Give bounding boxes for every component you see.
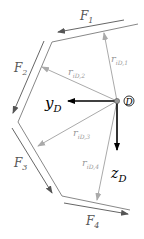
force-arrow-4 <box>64 203 128 214</box>
origin-point <box>114 98 119 103</box>
y-axis-label: yD <box>44 94 62 114</box>
vector-label-1: riD,1 <box>111 53 128 66</box>
vector-r-4 <box>97 101 117 200</box>
origin-label: D <box>124 97 132 107</box>
force-label-1: F1 <box>79 9 93 25</box>
force-label-3: F3 <box>13 156 27 172</box>
vector-label-4: riD,4 <box>82 157 99 170</box>
force-label-4: F4 <box>85 214 99 230</box>
force-label-2: F2 <box>13 61 27 77</box>
vector-label-3: riD,3 <box>73 127 90 140</box>
z-axis-label: zD <box>110 165 126 184</box>
force-arrow-2 <box>13 41 44 113</box>
vector-r-1 <box>104 33 117 101</box>
vector-label-2: riD,2 <box>68 66 85 79</box>
force-diagram: D yD zD F1 F2 F3 F4 riD,1 riD,2 riD,3 ri… <box>0 0 144 239</box>
